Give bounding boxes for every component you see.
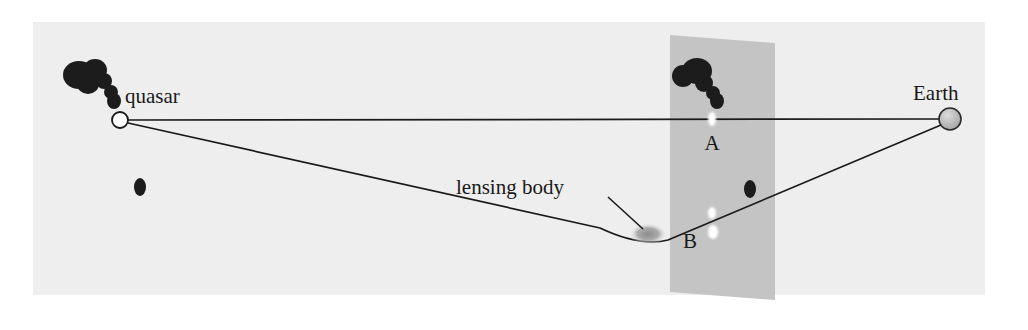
image-a-blob	[710, 93, 724, 109]
quasar-blob	[107, 93, 121, 109]
figure-root: quasar Earth lensing body A B	[0, 0, 1028, 330]
image-b-highlight	[708, 225, 718, 239]
figure-panel-background	[33, 22, 985, 295]
earth-label: Earth	[913, 81, 959, 105]
margin-text-line	[1002, 190, 1028, 206]
earth-marker	[939, 108, 961, 130]
margin-text-line	[1002, 144, 1028, 160]
undeflected-ray-path	[128, 119, 941, 120]
quasar-marker	[112, 112, 128, 128]
quasar-label: quasar	[125, 84, 180, 108]
margin-text-fragment	[1002, 128, 1028, 206]
margin-text-line	[1002, 175, 1028, 191]
margin-text-line	[1002, 128, 1028, 144]
stray-blob	[134, 178, 146, 196]
image-a-blob	[672, 65, 694, 87]
margin-text-line	[1002, 159, 1028, 175]
quasar-blob	[77, 74, 99, 94]
lensing-body-label: lensing body	[456, 175, 564, 199]
image-a-highlight	[708, 112, 716, 126]
image-b-label: B	[683, 229, 697, 253]
image-b-highlight-small	[708, 207, 716, 219]
image-b-blob	[744, 180, 756, 198]
image-a-label: A	[704, 131, 720, 155]
lensing-body-marker	[629, 223, 667, 245]
lensing-diagram: quasar Earth lensing body A B	[0, 0, 1028, 330]
